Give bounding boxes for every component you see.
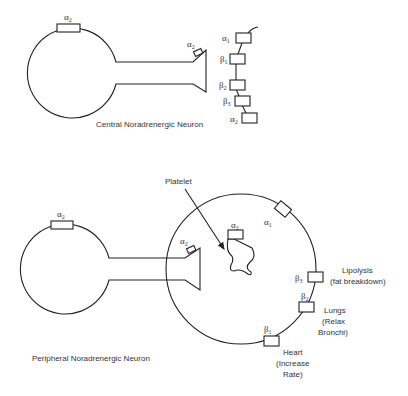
target-receptor-beta2 — [299, 302, 314, 312]
target-cell-membrane — [166, 194, 316, 344]
target-alpha1-label: α1 — [264, 217, 272, 228]
platelet-receptor — [228, 230, 243, 239]
lipolysis-label: Lipolysis — [342, 266, 373, 275]
heart-sublabel-1: (Increase — [276, 359, 310, 368]
target-receptor-beta1 — [264, 336, 279, 346]
peripheral-neuron-label: Peripheral Noradrenergic Neuron — [32, 354, 150, 363]
platelet-receptor-label: α2 — [231, 220, 239, 231]
legend-receptor-alpha1 — [236, 33, 251, 43]
central-soma-receptor-label: α2 — [64, 12, 72, 23]
lipolysis-sublabel: (fat breakdown) — [330, 277, 386, 286]
target-beta1-label: β1 — [264, 324, 272, 335]
legend-alpha1-label: α1 — [222, 33, 230, 44]
central-neuron: α2 α2 Central Noradrenergic Neuron — [27, 12, 206, 129]
legend-receptor-beta2 — [230, 80, 245, 90]
platelet-shape — [227, 239, 254, 275]
peripheral-neuron: α2 α2 Peripheral Noradrenergic Neuron — [20, 209, 200, 363]
legend-alpha2-label: α2 — [230, 114, 238, 125]
legend-beta1-label: β1 — [220, 54, 228, 65]
legend-beta3-label: β3 — [223, 96, 231, 107]
target-receptor-beta3 — [308, 272, 323, 282]
target-beta3-label: β3 — [295, 273, 303, 284]
central-soma-receptor — [57, 24, 80, 32]
chain-link — [238, 43, 242, 54]
heart-label: Heart — [283, 348, 303, 357]
central-neuron-outline — [27, 28, 206, 118]
chain-tail — [248, 27, 258, 33]
lungs-label: Lungs — [324, 306, 346, 315]
heart-sublabel-2: Rate) — [283, 370, 303, 379]
platelet-label: Platelet — [165, 177, 192, 186]
legend-receptor-beta3 — [235, 96, 250, 106]
peripheral-terminal-receptor-label: α2 — [180, 236, 188, 247]
receptor-chain: α1 β1 β2 β3 α2 — [219, 27, 258, 125]
adrenergic-receptor-diagram: α2 α2 Central Noradrenergic Neuron α1 β1… — [0, 0, 408, 396]
lungs-sublabel-2: Bronchi) — [318, 328, 348, 337]
legend-receptor-alpha2 — [242, 113, 257, 123]
central-terminal-receptor — [194, 48, 203, 56]
target-beta2-label: β2 — [301, 291, 309, 302]
peripheral-soma-receptor — [51, 221, 73, 229]
legend-receptor-beta1 — [230, 54, 245, 64]
central-neuron-label: Central Noradrenergic Neuron — [96, 120, 203, 129]
lungs-sublabel-1: (Relax — [322, 317, 345, 326]
legend-beta2-label: β2 — [219, 80, 227, 91]
diagram-svg: α2 α2 Central Noradrenergic Neuron α1 β1… — [0, 0, 408, 396]
peripheral-soma-receptor-label: α2 — [57, 209, 65, 220]
central-terminal-receptor-label: α2 — [187, 39, 195, 50]
target-cell: α2 Platelet α1 β3 Lipolysis (fat breakdo… — [165, 177, 386, 379]
